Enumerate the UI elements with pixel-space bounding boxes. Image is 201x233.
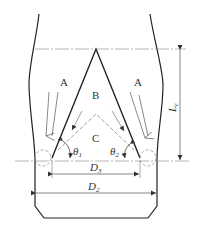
d3-label: D3 xyxy=(89,161,102,175)
left-wall xyxy=(29,14,44,218)
lc-label: Lc xyxy=(166,102,180,113)
right-wall xyxy=(148,14,163,218)
right-circle xyxy=(140,150,156,166)
theta2-arc xyxy=(125,144,130,158)
d2-label: D2 xyxy=(87,180,100,194)
left-circle xyxy=(35,150,51,166)
label-a-left: A xyxy=(60,76,68,88)
theta2-label: θ2 xyxy=(110,145,119,159)
diagram-canvas: A A B C θ1 θ2 D3 D2 Lc xyxy=(0,0,201,233)
cross-section-diagram: A A B C θ1 θ2 D3 D2 Lc xyxy=(0,0,201,233)
theta1-label: θ1 xyxy=(73,145,82,159)
label-c: C xyxy=(92,132,99,144)
label-b: B xyxy=(92,89,99,101)
theta1-arc xyxy=(63,141,70,158)
label-a-right: A xyxy=(134,76,142,88)
